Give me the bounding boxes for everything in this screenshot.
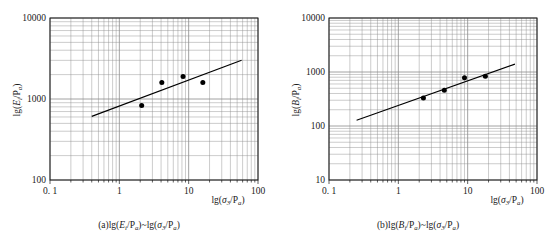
panel-b: 0. 1110100 10100100010000 lg(Bi/Pa) lg(σ… bbox=[279, 0, 557, 241]
panel-b-gridlines bbox=[329, 18, 537, 180]
panel-a-y-tick-1: 1000 bbox=[27, 94, 46, 104]
panel-b-data-point bbox=[421, 96, 426, 101]
panel-b-y-tick-0: 10 bbox=[316, 175, 326, 185]
panel-b-fitted-line bbox=[357, 64, 515, 120]
figure-log-log-plots: 0. 1110100 100100010000 lg(Ei/Pa) lg(σ3/… bbox=[0, 0, 557, 241]
panel-b-y-tick-labels: 10100100010000 bbox=[301, 13, 325, 185]
panel-b-data-layer bbox=[357, 64, 515, 120]
panel-b-x-tick-2: 10 bbox=[463, 186, 473, 196]
panel-a-x-tick-2: 10 bbox=[184, 186, 194, 196]
panel-a-plot: 0. 1110100 100100010000 lg(Ei/Pa) lg(σ3/… bbox=[0, 0, 278, 241]
panel-a-caption: (a)lg(Ei/Pa)~lg(σ3/Pa) bbox=[98, 220, 180, 231]
panel-b-x-tick-3: 100 bbox=[530, 186, 545, 196]
panel-a: 0. 1110100 100100010000 lg(Ei/Pa) lg(σ3/… bbox=[0, 0, 278, 241]
panel-a-x-tick-0: 0. 1 bbox=[43, 186, 58, 196]
panel-a-x-tick-3: 100 bbox=[251, 186, 266, 196]
panel-b-plot: 0. 1110100 10100100010000 lg(Bi/Pa) lg(σ… bbox=[279, 0, 557, 241]
panel-b-caption: (b)lg(Bi/Pa)~lg(σ3/Pa) bbox=[377, 220, 459, 231]
panel-a-y-tick-0: 100 bbox=[32, 175, 47, 185]
panel-a-data-point bbox=[181, 74, 186, 79]
panel-a-y-tick-labels: 100100010000 bbox=[22, 13, 46, 185]
panel-a-x-tick-1: 1 bbox=[117, 186, 122, 196]
panel-b-x-tick-0: 0. 1 bbox=[322, 186, 337, 196]
panel-b-x-axis-title: lg(σ3/Pa) bbox=[490, 195, 523, 206]
panel-b-y-tick-3: 10000 bbox=[301, 13, 325, 23]
panel-b-axes-frame bbox=[329, 18, 537, 180]
panel-a-data-point bbox=[159, 80, 164, 85]
panel-a-y-tick-2: 10000 bbox=[22, 13, 46, 23]
panel-b-y-axis-title: lg(Bi/Pa) bbox=[291, 84, 302, 117]
panel-a-x-axis-title: lg(σ3/Pa) bbox=[211, 195, 244, 206]
panel-b-data-point bbox=[483, 74, 488, 79]
panel-a-data-layer bbox=[92, 60, 242, 116]
panel-b-data-point bbox=[442, 88, 447, 93]
panel-a-fitted-line bbox=[92, 60, 242, 116]
panel-b-y-tick-1: 100 bbox=[311, 121, 326, 131]
panel-a-y-axis-title: lg(Ei/Pa) bbox=[12, 84, 23, 117]
panel-a-tick-marks bbox=[50, 180, 258, 184]
panel-b-x-tick-1: 1 bbox=[396, 186, 401, 196]
panel-b-y-tick-2: 1000 bbox=[306, 67, 325, 77]
panel-a-data-point bbox=[139, 103, 144, 108]
panel-b-data-point bbox=[462, 75, 467, 80]
panel-b-tick-marks bbox=[329, 180, 537, 184]
panel-a-data-point bbox=[200, 80, 205, 85]
panel-a-gridlines bbox=[50, 18, 258, 180]
